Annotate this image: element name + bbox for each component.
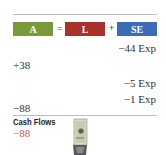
equity-box: SE	[117, 22, 157, 36]
cash-flows-title: Cash Flows	[13, 117, 56, 127]
bottom-rule	[13, 115, 157, 116]
liabilities-box: L	[65, 22, 105, 36]
plus-sign: +	[109, 23, 114, 33]
money-bill-icon	[70, 117, 90, 155]
cash-flows-value: −88	[13, 127, 30, 139]
equals-sign: =	[57, 23, 62, 33]
entry-equity-expense-3: −1 Exp	[124, 93, 156, 105]
entry-assets-total: −88	[13, 102, 30, 114]
entry-equity-expense-2: −5 Exp	[124, 77, 156, 89]
entry-equity-expense-1: −44 Exp	[118, 42, 156, 54]
assets-box: A	[13, 22, 53, 36]
top-rule	[13, 14, 157, 15]
entry-assets-1: +38	[13, 59, 30, 71]
